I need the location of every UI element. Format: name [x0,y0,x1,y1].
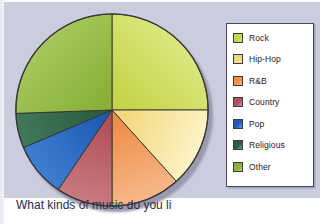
legend-item-religious: Religious [233,139,285,152]
figure-caption: What kinds of music do you li [16,200,316,222]
pie-chart-area [14,12,210,208]
legend-item-label: Country [249,97,279,107]
legend-item-label: Hip-Hop [249,54,281,64]
pie-slice-other [16,14,112,113]
legend-swatch-icon [233,97,243,107]
pie-slice-group [16,14,208,206]
legend-swatch-icon [233,162,243,172]
legend-item-country: Country [233,96,279,109]
legend-swatch-icon [233,54,243,64]
pie-chart-svg [14,12,210,208]
pie-chart-figure: RockHip-HopR&BCountryPopReligiousOther W… [0,0,323,224]
pie-chart-panel [10,8,215,200]
legend-item-hip-hop: Hip-Hop [233,53,281,66]
pie-slice-rock [112,14,208,110]
legend-item-label: Rock [249,33,269,43]
legend-item-label: Religious [249,140,285,150]
legend-item-label: Pop [249,119,264,129]
legend-item-pop: Pop [233,117,264,130]
figure-caption-text: What kinds of music do you li [16,200,316,212]
legend-item-label: Other [249,162,271,172]
legend-swatch-icon [233,76,243,86]
legend-item-rock: Rock [233,31,269,44]
legend-item-other: Other [233,160,271,173]
legend-swatch-icon [233,140,243,150]
page-edge-gutter [0,0,4,224]
legend-swatch-icon [233,33,243,43]
legend-item-r-b: R&B [233,74,267,87]
legend-item-label: R&B [249,76,267,86]
legend-swatch-icon [233,119,243,129]
chart-legend: RockHip-HopR&BCountryPopReligiousOther [226,23,314,187]
